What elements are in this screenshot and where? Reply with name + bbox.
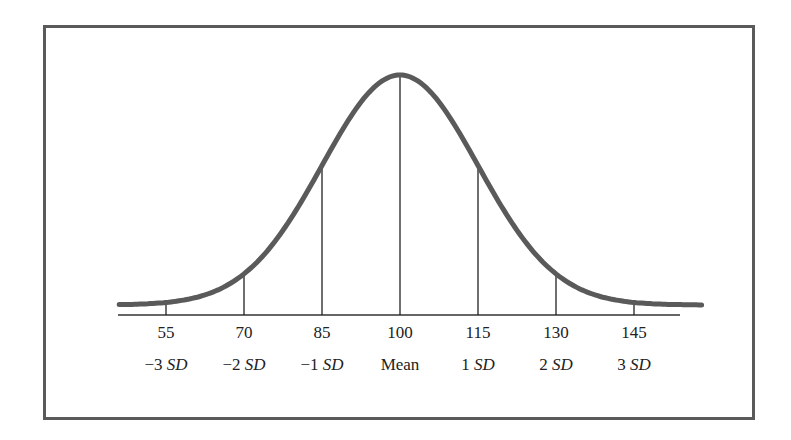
tick-label-value: 55: [158, 323, 175, 343]
tick-label-sd: −2 SD: [222, 355, 265, 375]
normal-curve: [119, 75, 701, 305]
tick-label-sd: −1 SD: [300, 355, 343, 375]
tick-label-sd: 2 SD: [539, 355, 573, 375]
tick-label-value: 70: [236, 323, 253, 343]
tick-label-value: 145: [621, 323, 647, 343]
tick-label-value: 115: [466, 323, 491, 343]
tick-label-sd: −3 SD: [144, 355, 187, 375]
tick-label-sd: 3 SD: [617, 355, 651, 375]
tick-label-sd: 1 SD: [461, 355, 495, 375]
tick-label-value: 130: [543, 323, 569, 343]
tick-label-value: 100: [387, 323, 413, 343]
tick-label-sd: Mean: [381, 355, 420, 375]
tick-label-value: 85: [314, 323, 331, 343]
